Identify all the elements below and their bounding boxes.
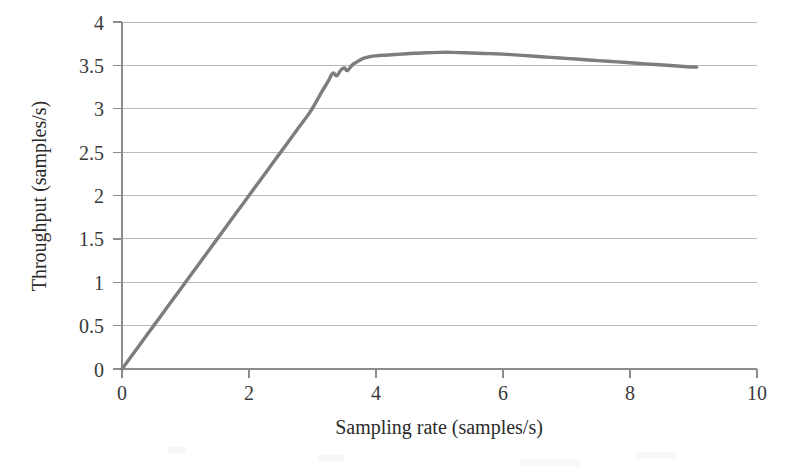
y-tick-label-0-5: 0.5 — [79, 315, 104, 337]
x-tick-label-8: 8 — [625, 382, 635, 404]
x-tick-label-2: 2 — [244, 382, 254, 404]
y-axis-title: Throughput (samples/s) — [28, 101, 51, 292]
scan-noise-group — [168, 447, 676, 466]
y-tick-label-1-5: 1.5 — [79, 228, 104, 250]
throughput-curve — [122, 52, 697, 369]
y-tick-label-3-5: 3.5 — [79, 55, 104, 77]
y-tick-label-3: 3 — [94, 98, 104, 120]
y-tick-label-0: 0 — [94, 359, 104, 381]
y-tick-label-1: 1 — [94, 272, 104, 294]
x-tick-label-6: 6 — [498, 382, 508, 404]
y-tick-labels-group: 4 3.5 3 2.5 2 1.5 1 0.5 0 — [79, 12, 104, 381]
x-tickmarks-group — [122, 369, 757, 378]
y-tick-label-2-5: 2.5 — [79, 142, 104, 164]
x-tick-label-4: 4 — [371, 382, 381, 404]
x-tick-label-0: 0 — [117, 382, 127, 404]
chart-figure: 4 3.5 3 2.5 2 1.5 1 0.5 0 0 2 4 6 8 10 S… — [0, 0, 806, 472]
gridlines-group — [122, 22, 757, 369]
throughput-vs-sampling-rate-chart: 4 3.5 3 2.5 2 1.5 1 0.5 0 0 2 4 6 8 10 S… — [0, 0, 806, 472]
x-axis-title: Sampling rate (samples/s) — [335, 416, 543, 439]
y-tick-label-4: 4 — [94, 12, 104, 34]
x-tick-labels-group: 0 2 4 6 8 10 — [117, 382, 767, 404]
y-tickmarks-group — [113, 22, 122, 369]
y-tick-label-2: 2 — [94, 185, 104, 207]
x-tick-label-10: 10 — [747, 382, 767, 404]
